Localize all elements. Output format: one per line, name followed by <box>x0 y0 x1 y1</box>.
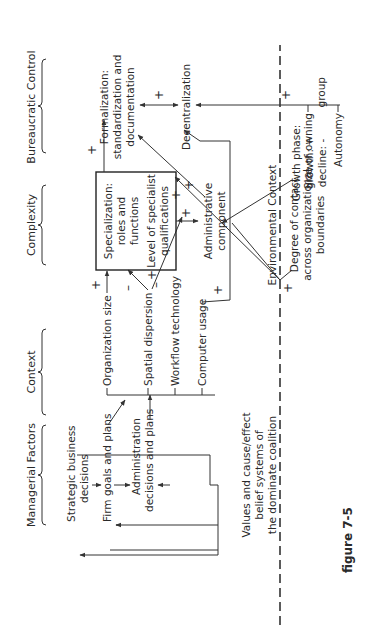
arrow-growth-to-admin <box>222 180 292 223</box>
label-spatial-dispersion: Spatial dispersion <box>142 293 154 386</box>
label-strategic-business-decisions-2: decisions <box>78 454 90 503</box>
label-organization-size: Organization size <box>101 295 113 386</box>
label-firm-goals-and-plans: Firm goals and plans <box>101 414 113 522</box>
sign-form-decent-plus: + <box>152 90 166 100</box>
sign-spatial-plus: + <box>145 270 159 280</box>
label-formalization-2: standardization and <box>111 55 123 160</box>
arrow-degree-to-box <box>175 177 280 280</box>
brace-managerial <box>38 425 46 525</box>
sign-spatial-minus-2: – <box>149 282 163 288</box>
label-growth-phase-3: decline: - <box>316 139 328 188</box>
label-workflow-technology: Workflow technology <box>169 276 181 386</box>
label-level-specialist-1: Level of specialist <box>145 174 157 268</box>
label-growth-phase-2: growth: + <box>303 137 315 189</box>
sign-admin-plus-2: + <box>169 190 183 200</box>
label-administration-1: Administration <box>130 418 142 495</box>
label-specialization-2: roles and <box>115 197 127 245</box>
values-feedback-line <box>110 485 218 550</box>
figure-caption: figure 7-5 <box>341 507 355 573</box>
label-administrative-component-1: Administrative <box>202 183 214 259</box>
header-context: Context <box>25 350 38 394</box>
header-bureaucratic-control: Bureaucratic Control <box>25 50 38 163</box>
label-environmental-context: Environmental Context <box>266 165 278 286</box>
label-degree-contact-3: boundaries <box>314 196 326 255</box>
brace-complexity <box>38 185 46 265</box>
label-values-3: the dominate coalition <box>266 416 278 534</box>
header-managerial-factors: Managerial Factors <box>25 423 38 527</box>
header-complexity: Complexity <box>25 193 38 256</box>
sign-box-admin-plus: + <box>179 208 193 218</box>
label-decentralization: Decentralization <box>180 64 192 150</box>
label-size-owning-group-2: group <box>315 77 327 108</box>
sign-degree-plus: + <box>281 283 295 293</box>
arrow-firm-to-context <box>108 400 125 425</box>
causal-diagram: Managerial Factors Context Complexity Bu… <box>0 0 373 625</box>
brace-bureaucratic <box>38 59 46 153</box>
sign-spatial-minus-1: – <box>121 285 135 291</box>
label-autonomy: Autonomy <box>332 113 344 167</box>
label-strategic-business-decisions-1: Strategic business <box>65 425 77 522</box>
sign-box-form-plus: + <box>85 145 99 155</box>
label-administration-2: decisions and plans <box>143 409 155 512</box>
sign-computer-plus: + <box>211 285 225 295</box>
label-growth-phase-1: Growth phase: <box>290 125 302 202</box>
brace-context <box>38 329 46 415</box>
label-specialization-1: Specialization: <box>102 183 114 259</box>
label-formalization-3: documentation <box>124 67 136 147</box>
sign-owning-plus: + <box>279 90 293 100</box>
label-values-2: belief systems of <box>253 430 265 520</box>
label-computer-usage: Computer usage <box>196 299 208 386</box>
label-values-1: Values and cause/effect <box>240 412 252 537</box>
figure-page: Managerial Factors Context Complexity Bu… <box>0 0 373 625</box>
sign-admin-form-plus: + <box>182 180 196 190</box>
label-specialization-3: functions <box>128 197 140 245</box>
sign-orgsize-plus: + <box>89 280 103 290</box>
label-formalization-1: Formalization: <box>98 70 110 144</box>
